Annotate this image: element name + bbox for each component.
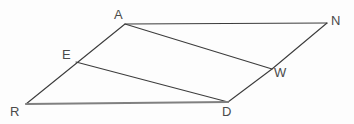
vertex-label-N: N <box>331 14 340 27</box>
figure-background <box>0 0 354 124</box>
vertex-label-E: E <box>62 48 71 61</box>
vertex-label-A: A <box>114 8 123 21</box>
figure-canvas <box>0 0 354 124</box>
vertex-label-D: D <box>222 105 231 118</box>
vertex-label-R: R <box>10 105 19 118</box>
geometry-figure: A N E W R D <box>0 0 354 124</box>
vertex-label-W: W <box>274 66 286 79</box>
